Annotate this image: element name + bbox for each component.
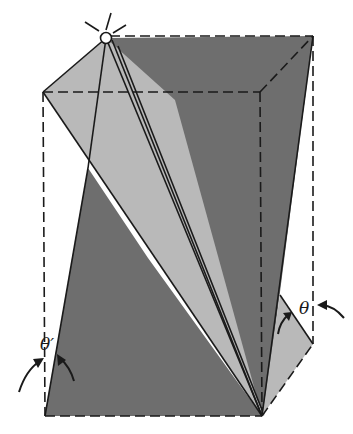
theta-prime-label: θ′	[40, 334, 54, 354]
box-left-vertical	[43, 92, 45, 416]
arrowhead-right-1	[317, 300, 327, 310]
tilted-plane-diagram: θ′ θ	[0, 0, 353, 434]
theta-label: θ	[299, 298, 309, 318]
